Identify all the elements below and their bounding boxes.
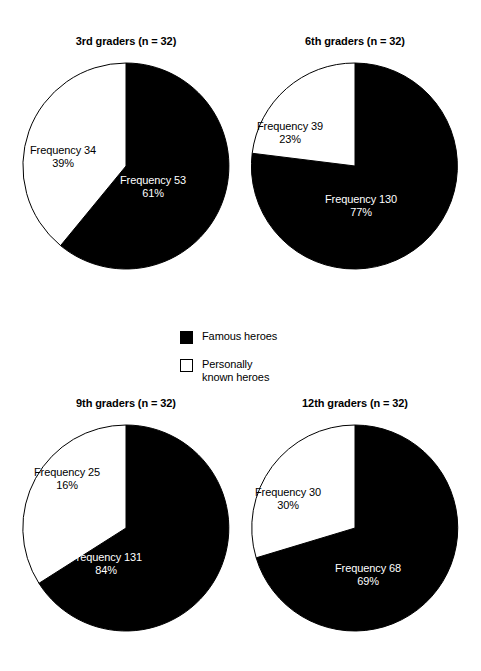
pie-6th-graders: Frequency 39 23% Frequency 130 77% <box>251 62 459 270</box>
slice-frequency: Frequency 131 <box>70 551 142 563</box>
slice-percent: 30% <box>255 499 321 512</box>
slice-percent: 69% <box>335 575 401 588</box>
slice-percent: 77% <box>325 206 397 219</box>
slice-frequency: Frequency 68 <box>335 562 401 574</box>
slice-percent: 61% <box>120 187 186 200</box>
legend: Famous heroes Personally known heroes <box>0 330 481 384</box>
slice-percent: 23% <box>257 133 323 146</box>
chart-9th-graders: 9th graders (n = 32) Frequency 25 16% Fr… <box>6 396 246 632</box>
legend-label: Personally known heroes <box>202 358 269 384</box>
chart-title: 3rd graders (n = 32) <box>6 34 246 48</box>
pie-svg <box>251 62 459 270</box>
legend-item-famous-heroes: Famous heroes <box>180 330 277 344</box>
slice-label-famous: Frequency 131 84% <box>70 551 142 577</box>
slice-label-personally-known: Frequency 25 16% <box>34 466 100 492</box>
legend-swatch-outlined-square-icon <box>180 359 193 372</box>
slice-label-personally-known: Frequency 30 30% <box>255 486 321 512</box>
slice-frequency: Frequency 130 <box>325 193 397 205</box>
pie-3rd-graders: Frequency 34 39% Frequency 53 61% <box>22 62 230 270</box>
slice-label-famous: Frequency 53 61% <box>120 174 186 200</box>
chart-6th-graders: 6th graders (n = 32) Frequency 39 23% Fr… <box>235 34 475 270</box>
pie-9th-graders: Frequency 25 16% Frequency 131 84% <box>22 424 230 632</box>
slice-frequency: Frequency 34 <box>30 144 96 156</box>
slice-label-famous: Frequency 68 69% <box>335 562 401 588</box>
slice-frequency: Frequency 25 <box>34 466 100 478</box>
slice-label-personally-known: Frequency 34 39% <box>30 144 96 170</box>
slice-frequency: Frequency 53 <box>120 174 186 186</box>
chart-title: 6th graders (n = 32) <box>235 34 475 48</box>
pie-12th-graders: Frequency 30 30% Frequency 68 69% <box>251 424 459 632</box>
pie-chart-figure: 3rd graders (n = 32) Frequency 34 39% Fr… <box>0 0 481 671</box>
slice-label-personally-known: Frequency 39 23% <box>257 120 323 146</box>
legend-swatch-filled-square-icon <box>180 331 193 344</box>
slice-percent: 84% <box>70 564 142 577</box>
slice-label-famous: Frequency 130 77% <box>325 193 397 219</box>
slice-percent: 16% <box>34 479 100 492</box>
chart-3rd-graders: 3rd graders (n = 32) Frequency 34 39% Fr… <box>6 34 246 270</box>
chart-title: 9th graders (n = 32) <box>6 396 246 410</box>
slice-personally-known-heroes <box>252 63 355 166</box>
chart-12th-graders: 12th graders (n = 32) Frequency 30 30% F… <box>235 396 475 632</box>
slice-percent: 39% <box>30 157 96 170</box>
slice-frequency: Frequency 39 <box>257 120 323 132</box>
legend-item-personally-known-heroes: Personally known heroes <box>180 358 269 384</box>
pie-svg <box>251 424 459 632</box>
slice-frequency: Frequency 30 <box>255 486 321 498</box>
chart-title: 12th graders (n = 32) <box>235 396 475 410</box>
legend-label: Famous heroes <box>202 330 277 343</box>
pie-svg <box>22 424 230 632</box>
